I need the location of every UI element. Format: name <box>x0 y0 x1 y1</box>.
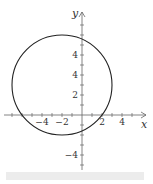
x-axis-label: x <box>141 118 148 131</box>
y-tick-label: −4 <box>65 150 79 160</box>
y-tick-label: 2 <box>72 90 78 100</box>
bottom-bar <box>6 172 144 180</box>
y-tick-label: 4 <box>72 50 78 60</box>
x-tick-label: −2 <box>55 117 68 127</box>
x-tick-label: 4 <box>119 117 125 127</box>
x-tick-label: −4 <box>35 117 49 127</box>
y-axis-label: y <box>71 7 79 20</box>
circle-plot: −4 −2 2 4 −4 2 4 4 x y <box>0 0 153 184</box>
y-tick-label: 4 <box>72 70 78 80</box>
x-tick-label: 2 <box>99 117 105 127</box>
